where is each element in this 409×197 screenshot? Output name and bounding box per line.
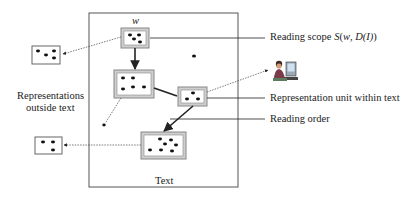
text-frame-label: Text (155, 176, 174, 187)
outside-rep-top (32, 46, 60, 64)
outside-rep-bottom (35, 137, 62, 154)
unit-4 (141, 132, 186, 159)
reading-scope-prefix: Reading scope (270, 31, 334, 42)
word-label: w (132, 16, 139, 27)
text-frame (89, 13, 238, 187)
unit-w (121, 28, 149, 48)
formula-I: (I) (363, 31, 374, 42)
left-label-line1: Representations (17, 91, 84, 102)
order-arrow-2 (154, 88, 177, 96)
formula-close: ) (373, 31, 377, 42)
link-top-left (63, 37, 121, 54)
formula-D: D (355, 31, 363, 42)
loose-dot-1 (192, 54, 196, 57)
unit-3 (178, 87, 207, 106)
unit-2 (114, 70, 154, 98)
link-unit2-dot (106, 98, 121, 122)
callout-representation-unit: Representation unit within text (270, 93, 400, 104)
callout-reading-order: Reading order (270, 114, 330, 125)
loose-dot-2 (102, 124, 105, 127)
left-label-line2: outside text (26, 103, 75, 114)
order-arrow-3 (164, 106, 193, 131)
person-computer-icon (273, 61, 298, 81)
callout-reading-scope: Reading scope S(w, D(I)) (270, 32, 377, 43)
formula-w: w (343, 31, 350, 42)
